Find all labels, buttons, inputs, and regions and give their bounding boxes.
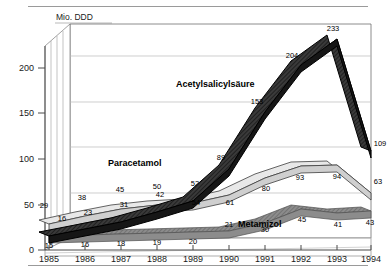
paracetamol-label-1987: 45 [116, 185, 124, 194]
x-tick-1990: 1990 [219, 254, 239, 264]
ass-label-1987: 31 [120, 200, 128, 209]
metamizol-label-1989: 20 [189, 237, 197, 246]
area-chart-svg: 0 50 100 150 200 Mio. DDD 1985 1986 1987… [0, 0, 390, 273]
y-axis: 0 50 100 150 200 [19, 46, 45, 255]
x-tick-1989: 1989 [183, 254, 203, 264]
y-tick-200: 200 [19, 63, 34, 73]
ass-label-1994: 109 [374, 139, 387, 148]
paracetamol-label-1993: 94 [333, 172, 341, 181]
ass-label-1988: 42 [156, 190, 164, 199]
series-annotation-paracetamol: Paracetamol [108, 158, 162, 168]
ass-label-1991: 153 [251, 97, 264, 106]
metamizol-label-1987: 18 [117, 239, 125, 248]
x-tick-1991: 1991 [255, 254, 275, 264]
metamizol-label-1993: 41 [334, 220, 342, 229]
ass-label-1993: 233 [327, 24, 340, 33]
paracetamol-label-1990: 61 [226, 198, 234, 207]
y-tick-100: 100 [19, 154, 34, 164]
y-tick-0: 0 [29, 245, 34, 255]
ass-label-1989: 54 [192, 198, 200, 207]
x-tick-1988: 1988 [147, 254, 167, 264]
x-tick-1994: 1994 [361, 254, 381, 264]
metamizol-label-1986: 16 [81, 240, 89, 249]
ass-label-1990: 89 [217, 153, 225, 162]
ass-label-1986: 23 [84, 208, 92, 217]
paracetamol-label-1992: 93 [296, 173, 304, 182]
y-tick-150: 150 [19, 108, 34, 118]
paracetamol-label-1991: 80 [262, 184, 270, 193]
x-tick-1986: 1986 [75, 254, 95, 264]
y-tick-50: 50 [24, 200, 34, 210]
x-tick-1992: 1992 [291, 254, 311, 264]
y-axis-title: Mio. DDD [56, 12, 93, 22]
paracetamol-label-1986: 38 [78, 193, 86, 202]
metamizol-label-1992: 45 [298, 215, 306, 224]
paracetamol-label-1994: 63 [374, 177, 382, 186]
series-annotation-acetylsalicylsaeure: Acetylsalicylsäure [176, 79, 255, 89]
paracetamol-label-1985: 29 [40, 201, 48, 210]
metamizol-label-1994: 43 [366, 218, 374, 227]
ass-label-1985: 16 [58, 214, 66, 223]
ass-label-1992: 204 [286, 51, 299, 60]
metamizol-label-1990: 21 [225, 220, 233, 229]
series-annotation-metamizol: Metamizol [238, 219, 282, 229]
x-tick-1987: 1987 [111, 254, 131, 264]
metamizol-label-1988: 19 [153, 238, 161, 247]
chart-figure: 0 50 100 150 200 Mio. DDD 1985 1986 1987… [0, 0, 390, 273]
x-tick-1993: 1993 [327, 254, 347, 264]
x-tick-1985: 1985 [39, 254, 59, 264]
